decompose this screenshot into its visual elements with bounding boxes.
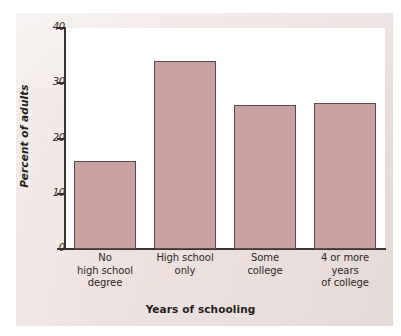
x-axis-category-label-line: Some [225, 252, 305, 265]
y-axis-tick-label: 40 [43, 21, 65, 32]
x-axis-category-label: Nohigh schooldegree [65, 252, 145, 290]
x-axis-category-label-line: only [145, 265, 225, 278]
y-axis-title: Percent of adults [18, 76, 30, 196]
x-axis-category-label-line: college [225, 265, 305, 278]
x-axis-category-label-line: high school [65, 265, 145, 278]
y-axis-tick-label: 10 [43, 187, 65, 198]
x-axis-category-label-line: of college [305, 277, 385, 290]
bar [74, 161, 136, 249]
x-axis-category-label-line: 4 or more [305, 252, 385, 265]
y-axis-tick-label: 30 [43, 76, 65, 87]
y-axis-tick-label: 20 [43, 132, 65, 143]
bar-chart-figure: 010203040 Nohigh schooldegreeHigh school… [0, 0, 401, 336]
bars-layer [65, 28, 385, 249]
bar [154, 61, 216, 249]
y-axis-tick-label: 0 [43, 242, 65, 253]
x-axis-title: Years of schooling [0, 303, 401, 315]
bar [314, 103, 376, 249]
x-axis-category-label-line: years [305, 265, 385, 278]
x-axis-category-label-line: degree [65, 277, 145, 290]
x-axis-category-label-line: No [65, 252, 145, 265]
x-axis-category-label: High schoolonly [145, 252, 225, 277]
x-axis-category-label-line: High school [145, 252, 225, 265]
x-axis-category-label: 4 or moreyearsof college [305, 252, 385, 290]
x-axis-category-label: Somecollege [225, 252, 305, 277]
bar [234, 105, 296, 249]
y-axis-tick-label-row: 40 [22, 21, 65, 33]
y-axis-tick-label-row: 0 [22, 242, 65, 254]
